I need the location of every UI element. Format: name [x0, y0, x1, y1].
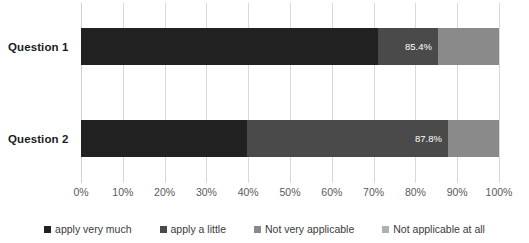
x-tick-label-10: 10% [112, 186, 133, 198]
legend-item-not-applicable-at-all[interactable]: Not applicable at all [382, 224, 485, 235]
legend-swatch-icon [254, 226, 261, 233]
stacked-bar-chart: 85.4%87.8% Question 1Question 2 0%10%20%… [0, 0, 529, 243]
legend-item-apply-very-much[interactable]: apply very much [44, 224, 131, 235]
bar-segment-not-very-applicable[interactable] [438, 28, 499, 65]
bar-segment-not-very-applicable[interactable] [448, 120, 499, 157]
category-label-question-1: Question 1 [0, 41, 76, 53]
legend-item-not-very-applicable[interactable]: Not very applicable [254, 224, 354, 235]
x-tick-label-0: 0% [73, 186, 88, 198]
x-tick-label-50: 50% [279, 186, 300, 198]
legend-label: apply very much [55, 224, 131, 235]
legend-label: Not applicable at all [393, 224, 485, 235]
x-tick-label-70: 70% [363, 186, 384, 198]
bar-value-label: 87.8% [415, 134, 448, 144]
bar-question-2[interactable]: 87.8% [81, 120, 499, 157]
bar-segment-apply-a-little[interactable]: 85.4% [378, 28, 438, 65]
bar-segment-apply-a-little[interactable]: 87.8% [247, 120, 448, 157]
x-tick-label-90: 90% [447, 186, 468, 198]
chart-legend: apply very muchapply a littleNot very ap… [0, 219, 529, 239]
bar-segment-apply-very-much[interactable] [81, 120, 247, 157]
x-axis: 0%10%20%30%40%50%60%70%80%90%100% [81, 186, 499, 204]
x-tick-label-40: 40% [238, 186, 259, 198]
x-tick-label-80: 80% [405, 186, 426, 198]
x-tick-label-20: 20% [154, 186, 175, 198]
category-label-question-2: Question 2 [0, 133, 76, 145]
gridline-100 [499, 3, 500, 183]
x-tick-label-30: 30% [196, 186, 217, 198]
legend-item-apply-a-little[interactable]: apply a little [160, 224, 226, 235]
x-tick-label-100: 100% [486, 186, 513, 198]
legend-swatch-icon [382, 226, 389, 233]
legend-label: apply a little [171, 224, 226, 235]
bar-segment-apply-very-much[interactable] [81, 28, 378, 65]
x-tick-label-60: 60% [321, 186, 342, 198]
legend-swatch-icon [44, 226, 51, 233]
legend-swatch-icon [160, 226, 167, 233]
bar-value-label: 85.4% [405, 42, 438, 52]
bar-question-1[interactable]: 85.4% [81, 28, 499, 65]
plot-area: 85.4%87.8% [81, 3, 499, 183]
legend-label: Not very applicable [265, 224, 354, 235]
